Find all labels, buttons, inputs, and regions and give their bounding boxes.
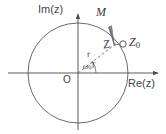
point-m-label: M [96,6,106,18]
point-z-label: Z [102,38,110,51]
z0-point-marker [120,41,126,47]
z-plane-figure: Im(z) Re(z) M Z Z0 r ω0T O [0,0,166,134]
point-z0-base: Z [129,35,136,49]
imaginary-axis-label: Im(z) [38,4,63,15]
point-z0-subscript: 0 [136,40,140,50]
point-z0-label: Z0 [129,36,140,50]
real-axis-label: Re(z) [128,78,155,89]
origin-label: O [63,75,71,85]
